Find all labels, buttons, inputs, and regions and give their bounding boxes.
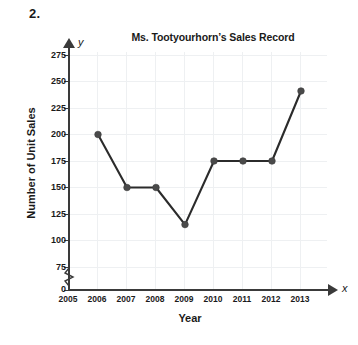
y-axis-title: Number of Unit Sales: [25, 73, 37, 253]
data-point: [124, 184, 131, 191]
data-point: [211, 158, 218, 165]
data-point: [182, 221, 189, 228]
x-axis-title: Year: [150, 312, 230, 324]
data-point: [153, 184, 160, 191]
data-series-layer: [0, 0, 358, 345]
data-point: [298, 88, 305, 95]
chart-plot-area: y x 275 250 225 200 175 150 125 100 75 0…: [0, 0, 358, 345]
data-point-group: [95, 88, 305, 228]
data-point: [269, 158, 276, 165]
data-point: [240, 158, 247, 165]
data-point: [95, 131, 102, 138]
